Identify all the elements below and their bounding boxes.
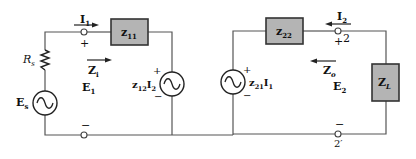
voltage-source-es: Es	[16, 91, 57, 115]
svg-text:I1: I1	[80, 13, 90, 28]
es-label: E	[16, 96, 24, 109]
z22-impedance: z22	[266, 18, 303, 44]
svg-text:I2: I2	[337, 10, 347, 25]
svg-text:+: +	[153, 65, 161, 76]
input-minus: −	[81, 119, 90, 132]
terminal-1-prime	[81, 132, 87, 138]
svg-text:z21I1: z21I1	[249, 77, 273, 91]
z-parameter-circuit: Rs Es I1 + − Zi E1 z11	[0, 0, 416, 159]
load-impedance: ZL	[372, 64, 399, 101]
svg-text:−: −	[335, 118, 344, 131]
input-port-labels: I1 + − Zi E1	[74, 13, 112, 132]
e2-label: E	[333, 80, 341, 93]
svg-text:Rs: Rs	[22, 53, 35, 68]
dependent-source-z12i2: + − z12I2	[132, 65, 184, 102]
svg-text:E1: E1	[82, 81, 95, 96]
input-plus: +	[80, 37, 89, 50]
svg-text:+: +	[334, 35, 343, 48]
terminal-2-label: 2	[343, 32, 350, 45]
svg-text:E2: E2	[333, 80, 346, 95]
svg-text:Zo: Zo	[323, 64, 336, 79]
terminal-2-prime-label: 2′	[334, 138, 343, 149]
svg-text:z12I2: z12I2	[132, 79, 156, 93]
zo-label: Z	[323, 64, 331, 77]
dependent-source-z21i1: + − z21I1	[221, 64, 273, 101]
svg-text:Zi: Zi	[88, 64, 99, 79]
terminal-2-prime	[335, 131, 341, 137]
terminal-1	[81, 29, 87, 35]
e1-label: E	[82, 81, 90, 94]
svg-text:+: +	[243, 64, 251, 75]
input-circuit-wires	[45, 32, 233, 135]
terminal-2	[335, 28, 341, 34]
source-resistor: Rs	[22, 50, 49, 70]
svg-text:Es: Es	[16, 96, 28, 111]
svg-text:−: −	[243, 90, 251, 101]
zi-label: Z	[88, 64, 96, 77]
z11-impedance: z11	[111, 19, 148, 45]
resistor-label: R	[22, 53, 31, 66]
